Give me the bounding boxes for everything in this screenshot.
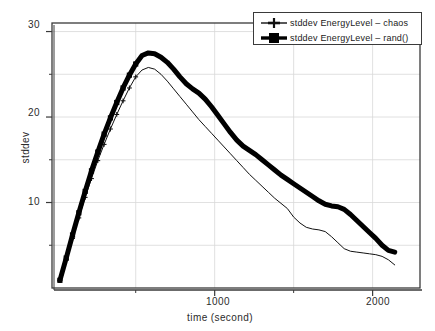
legend-entry-chaos: stddev EnergyLevel – chaos [254, 15, 423, 30]
gridlines [52, 23, 420, 288]
x-axis-label: time (second) [130, 312, 310, 323]
y-tick-label-20: 20 [16, 107, 40, 118]
legend-label-chaos: stddev EnergyLevel – chaos [290, 18, 408, 28]
legend-entry-rand: stddev EnergyLevel – rand() [254, 30, 423, 45]
plot-frame [52, 23, 422, 290]
plot-canvas [0, 0, 435, 331]
x-tick-label-1000: 1000 [198, 296, 238, 307]
chart-figure: stddev time (second) 30 20 10 1000 2000 … [0, 0, 435, 331]
y-axis-label: stddev [20, 120, 31, 176]
legend-label-rand: stddev EnergyLevel – rand() [290, 33, 408, 43]
y-tick-label-10: 10 [16, 196, 40, 207]
x-tick-label-2000: 2000 [358, 296, 398, 307]
y-tick-label-30: 30 [16, 19, 40, 30]
data-series [57, 53, 394, 283]
legend: stddev EnergyLevel – chaos stddev Energy… [253, 12, 422, 45]
filled-square-icon [260, 31, 288, 45]
plus-icon [260, 16, 288, 30]
